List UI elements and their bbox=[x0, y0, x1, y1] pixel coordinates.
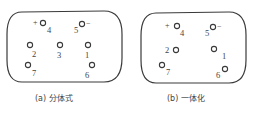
connector-diagrams: + 4 5 − 2 3 1 7 6 + 4 5 − 2 1 7 6 (a) 分体… bbox=[0, 0, 255, 113]
pin-5-label: 5 bbox=[205, 28, 209, 38]
pin-4 bbox=[174, 23, 179, 28]
pin-4-label: 4 bbox=[47, 25, 52, 35]
pin-4 bbox=[40, 20, 45, 25]
pin-7-label: 7 bbox=[166, 67, 170, 77]
pin-2-label: 2 bbox=[165, 45, 169, 55]
pin-1-label: 1 bbox=[85, 50, 89, 60]
pin-4-plus-sign: + bbox=[33, 18, 38, 27]
connector-b-pins: + 4 5 − 2 1 7 6 bbox=[159, 21, 227, 80]
connector-b-outline bbox=[141, 12, 246, 83]
connector-a-pins: + 4 5 − 2 3 1 7 6 bbox=[25, 18, 94, 80]
pin-6 bbox=[89, 62, 94, 67]
pin-2 bbox=[173, 47, 178, 52]
pin-2 bbox=[27, 42, 32, 47]
pin-1-label: 1 bbox=[222, 51, 226, 61]
pin-4-label: 4 bbox=[180, 28, 185, 38]
pin-5-label: 5 bbox=[74, 25, 78, 35]
pin-5-minus-sign: − bbox=[217, 22, 222, 31]
pin-7-label: 7 bbox=[32, 68, 36, 78]
pin-6-label: 6 bbox=[85, 70, 89, 80]
pin-5 bbox=[79, 21, 84, 26]
pin-6-label: 6 bbox=[216, 70, 220, 80]
caption-a: (a) 分体式 bbox=[35, 93, 73, 103]
pin-3 bbox=[57, 42, 62, 47]
pin-1 bbox=[211, 46, 216, 51]
pin-6 bbox=[222, 66, 227, 71]
connector-a-outline bbox=[7, 11, 122, 82]
pin-7 bbox=[25, 62, 30, 67]
pin-2-label: 2 bbox=[32, 49, 36, 59]
caption-b: (b) 一体化 bbox=[167, 93, 205, 103]
pin-3-label: 3 bbox=[57, 50, 61, 60]
pin-1 bbox=[85, 42, 90, 47]
pin-7 bbox=[159, 62, 164, 67]
pin-5 bbox=[210, 24, 215, 29]
pin-4-plus-sign: + bbox=[165, 21, 170, 30]
pin-5-minus-sign: − bbox=[86, 19, 91, 28]
